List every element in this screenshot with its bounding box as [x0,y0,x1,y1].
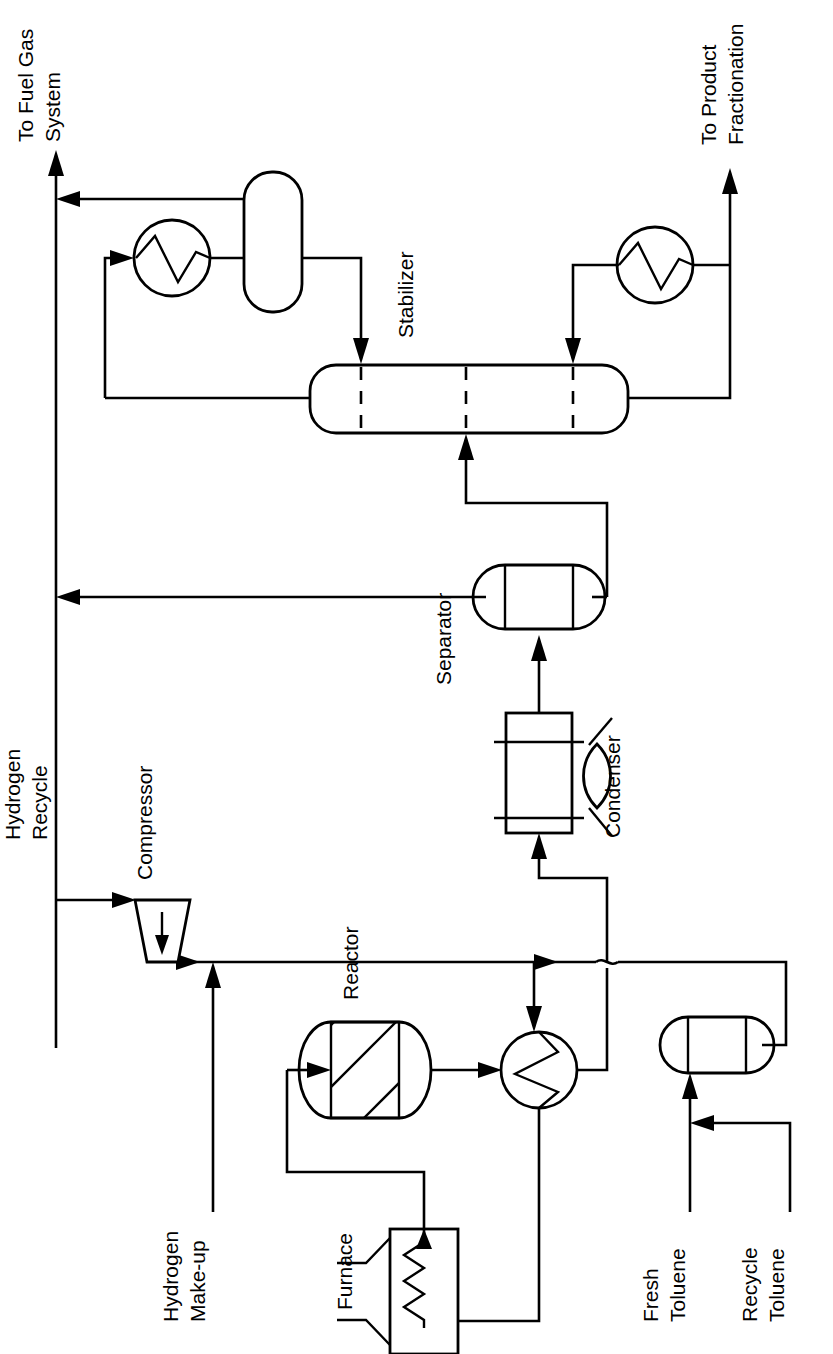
to-product-line1: To Product [697,44,720,145]
label-reactor: Reactor [339,926,362,1000]
to-product-fractionation-line [722,168,738,265]
toluene-feed-drum [660,962,786,1073]
to-product-line2: Fractionation [724,24,747,145]
separator-drum [473,565,607,629]
label-to-fuel-gas-system: To Fuel Gas System [14,29,64,142]
arrowhead-feed-header-right [534,954,558,970]
fresh-toluene-line2: Toluene [666,1248,689,1322]
fresh-toluene-line1: Fresh [639,1268,662,1322]
arrowhead-overhead-to-condenser [110,250,134,266]
reflux-drum [244,172,302,312]
arrowhead-hydrogen-makeup [205,962,221,988]
label-hydrogen-recycle: Hydrogen Recycle [1,749,51,840]
recycle-toluene-line2: Toluene [765,1248,788,1322]
fuel-gas-header-line [48,150,64,1048]
hydrogen-recycle-line1: Hydrogen [1,749,24,840]
stabilizer-overhead-vapor-line [105,250,134,398]
recycle-toluene-line1: Recycle [738,1247,761,1322]
label-hydrogen-makeup: Hydrogen Make-up [159,1231,209,1322]
stabilizer-column [105,365,628,433]
hydrogen-makeup-line2: Make-up [186,1240,209,1322]
hydrogen-recycle-line2: Recycle [28,765,51,840]
arrowhead-fresh-toluene [682,1073,698,1099]
reactor [268,992,502,1178]
label-stabilizer: Stabilizer [394,252,417,338]
arrowhead-effluent-to-condenser [531,833,547,859]
label-compressor: Compressor [133,766,156,880]
reactor-feed-header-line [176,954,730,970]
reboiler [617,227,693,303]
arrowhead-reactor-outlet [478,1062,502,1078]
arrowhead-feed-to-stabilizer [458,434,474,460]
label-condenser: Condenser [601,735,624,838]
recycle-toluene-line [690,1115,790,1212]
label-furnace: Furnace [333,1233,356,1310]
process-flow-diagram: To Fuel Gas System To Product Fractionat… [0,0,833,1354]
label-separator: Separator [432,593,455,685]
fresh-toluene-line [682,1073,698,1212]
label-recycle-toluene: Recycle Toluene [738,1247,788,1322]
condenser-to-separator-line [531,635,547,713]
arrowhead-reflux-to-column [353,338,369,364]
compressor [135,900,190,962]
overhead-condenser [134,220,210,296]
arrowhead-reboiler-return [565,338,581,364]
separator-gas-recycle-line [56,589,486,605]
arrowhead-reflux-vapor [56,191,80,207]
arrowhead-separator-gas [56,589,80,605]
arrowhead-feed-into-exchanger [526,1006,542,1032]
reflux-drum-vapor-line [56,191,248,207]
hydrogen-makeup-line1: Hydrogen [159,1231,182,1322]
arrowhead-to-product [722,168,738,194]
arrowhead-compressor-suction [112,892,136,908]
arrowhead-condenser-to-separator [531,635,547,661]
arrowhead-recycle-toluene [690,1115,714,1131]
label-to-product-fractionation: To Product Fractionation [697,24,747,145]
reactor-effluent-to-condenser-line [531,833,607,962]
to-fuel-gas-line1: To Fuel Gas [14,29,37,142]
compressor-suction-line [56,892,136,908]
arrowhead-to-fuel-gas [48,150,64,176]
reflux-return-line [302,258,369,364]
hydrogen-makeup-line [205,962,221,1212]
condenser [494,713,612,836]
label-fresh-toluene: Fresh Toluene [639,1248,689,1322]
to-fuel-gas-line2: System [41,72,64,142]
